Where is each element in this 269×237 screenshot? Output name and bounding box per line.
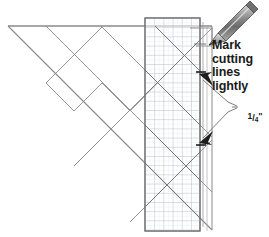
pencil-barrel	[218, 5, 254, 41]
mark-cutting-lines-note: Mark cutting lines lightly	[212, 39, 253, 93]
quarter-inch-dimension-label: 1/4"	[238, 101, 263, 133]
figure-canvas: Mark cutting lines lightly 1/4"	[0, 0, 269, 237]
dimension-inch-mark: "	[258, 111, 262, 121]
diagram-artboard	[0, 0, 269, 237]
